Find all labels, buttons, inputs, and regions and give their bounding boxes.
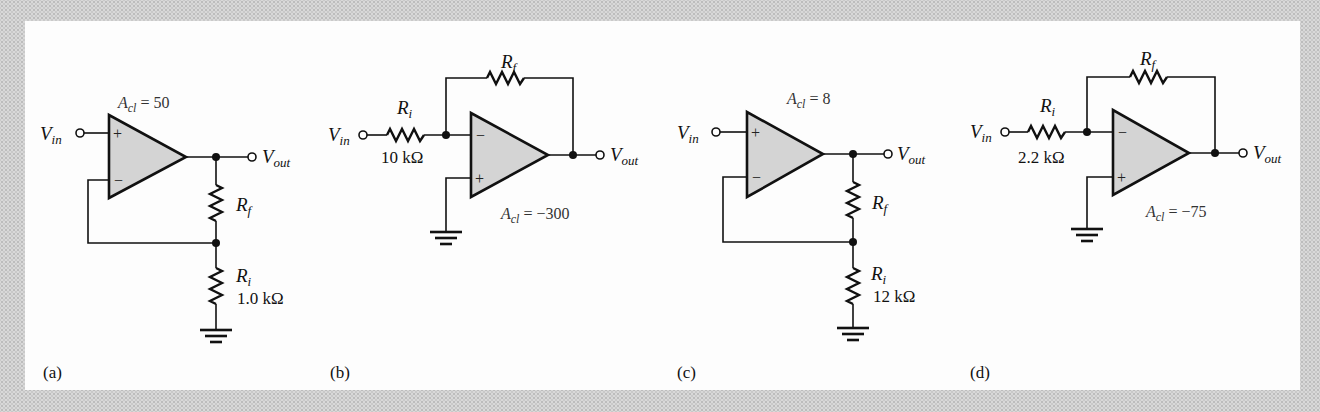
rf-resistor [210, 185, 222, 221]
vin-label: Vin [328, 124, 350, 148]
figure-panel: Acl = 50 Vin + − Vout Rf Ri 1.0 kΩ (a) R… [25, 21, 1300, 390]
circuit-c: Acl = 8 Vin + − Vout Rf Ri 12 kΩ (c) [677, 90, 926, 382]
summing-junction [1083, 128, 1091, 136]
gain-label: Acl = 50 [117, 94, 169, 115]
gain-label: Acl = −300 [500, 205, 570, 226]
gain-label: Acl = 8 [786, 90, 830, 111]
ri-value: 12 kΩ [873, 287, 915, 306]
vout-terminal [884, 150, 892, 158]
summing-junction [442, 131, 450, 139]
inverting-input-sign: − [114, 172, 123, 189]
output-node [1211, 149, 1219, 157]
caption-a: (a) [43, 363, 62, 382]
vin-label: Vin [677, 122, 699, 146]
circuit-b: Rf Ri Vin 10 kΩ − + Vout Acl = −300 (b) [328, 51, 639, 382]
ri-resistor [387, 129, 424, 141]
noninverting-input-sign: + [113, 125, 122, 142]
vout-terminal [248, 153, 256, 161]
feedback-junction [212, 239, 220, 247]
rf-resistor [847, 182, 859, 218]
caption-b: (b) [330, 363, 350, 382]
vin-label: Vin [40, 123, 62, 147]
noninverting-input-sign: + [751, 124, 760, 141]
inverting-input-sign: − [752, 169, 761, 186]
ri-value: 1.0 kΩ [237, 289, 284, 308]
vin-terminal [76, 129, 84, 137]
vin-terminal [712, 128, 720, 136]
vout-label: Vout [897, 143, 926, 167]
ri-value: 10 kΩ [381, 148, 423, 167]
vout-terminal [1239, 149, 1247, 157]
rf-resistor [1130, 71, 1167, 83]
ri-label: Ri [870, 263, 887, 287]
vin-terminal [1001, 128, 1009, 136]
ground-icon [200, 330, 232, 342]
feedback-junction [849, 238, 857, 246]
rf-label: Rf [1139, 48, 1158, 72]
inverting-input-sign: − [1118, 124, 1127, 141]
ri-label: Ri [396, 97, 413, 121]
rf-resistor [487, 72, 524, 84]
inverting-input-sign: − [476, 127, 485, 144]
ri-value: 2.2 kΩ [1018, 148, 1065, 167]
rf-label: Rf [235, 194, 254, 218]
ri-label: Ri [235, 265, 252, 289]
ground-icon [430, 232, 462, 244]
schematic-canvas: Acl = 50 Vin + − Vout Rf Ri 1.0 kΩ (a) R… [25, 21, 1300, 390]
rf-label: Rf [871, 192, 890, 216]
ground-icon [1071, 229, 1103, 241]
caption-c: (c) [677, 363, 696, 382]
circuit-d: Rf Ri Vin 2.2 kΩ − + Vout Acl = −75 (d) [970, 48, 1282, 382]
ri-resistor [210, 268, 222, 304]
caption-d: (d) [970, 363, 990, 382]
vin-label: Vin [970, 121, 992, 145]
circuit-a: Acl = 50 Vin + − Vout Rf Ri 1.0 kΩ (a) [40, 94, 291, 382]
output-node [569, 151, 577, 159]
ground-icon [837, 328, 869, 340]
gain-label: Acl = −75 [1145, 203, 1207, 224]
vout-terminal [596, 151, 604, 159]
noninverting-input-sign: + [475, 170, 484, 187]
vout-label: Vout [610, 144, 639, 168]
ri-label: Ri [1039, 95, 1056, 119]
ri-resistor [1028, 126, 1065, 138]
vout-label: Vout [262, 146, 291, 170]
ri-resistor [847, 268, 859, 304]
vout-label: Vout [1253, 142, 1282, 166]
vin-terminal [359, 131, 367, 139]
noninverting-input-sign: + [1117, 169, 1126, 186]
